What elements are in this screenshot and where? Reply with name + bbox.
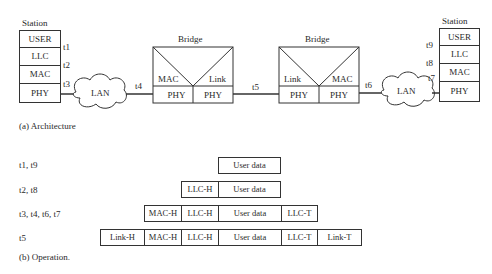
lan-left-label: LAN	[91, 88, 110, 98]
left-station-phy-layer: PHY	[19, 83, 61, 103]
right-bridge-phy-2: PHY	[319, 90, 359, 100]
left-bridge-phy-1: PHY	[160, 90, 193, 100]
field-link-t: Link-T	[317, 229, 362, 246]
left-bridge-link: Link	[209, 74, 226, 84]
row-label-t5: t5	[19, 233, 26, 243]
field-mac-h: MAC-H	[144, 205, 182, 222]
field-user-data: User data	[218, 229, 282, 246]
row-label-t1-t9: t1, t9	[19, 160, 38, 170]
field-mac-h: MAC-H	[144, 229, 182, 246]
operation-caption: (b) Operation.	[19, 252, 70, 262]
field-user-data: User data	[218, 181, 281, 198]
right-station-mac-layer: MAC	[439, 63, 480, 82]
field-user-data: User data	[218, 157, 281, 174]
lan-right-label: LAN	[397, 86, 416, 96]
right-station-phy-layer: PHY	[439, 81, 480, 102]
tap-label-t1: t1	[63, 42, 70, 52]
field-llc-t: LLC-T	[281, 205, 318, 222]
left-bridge-title: Bridge	[178, 34, 203, 44]
field-llc-h: LLC-H	[181, 229, 219, 246]
field-llc-h: LLC-H	[181, 205, 219, 222]
field-user-data: User data	[218, 205, 282, 222]
left-station-title: Station	[22, 18, 48, 28]
architecture-caption: (a) Architecture	[19, 121, 76, 131]
right-station-user-layer: USER	[439, 28, 480, 46]
tap-label-t9: t9	[426, 40, 433, 50]
row-label-t2-t8: t2, t8	[19, 185, 38, 195]
left-bridge-mac: MAC	[158, 74, 179, 84]
left-bridge-phy-2: PHY	[193, 90, 233, 100]
field-llc-t: LLC-T	[281, 229, 318, 246]
tap-label-t8: t8	[426, 58, 433, 68]
tap-label-t7: t7	[428, 73, 435, 83]
field-llc-h: LLC-H	[181, 181, 219, 198]
right-bridge-title: Bridge	[305, 34, 330, 44]
tap-label-t2: t2	[63, 60, 70, 70]
tap-label-t3: t3	[63, 79, 70, 89]
left-station-llc-layer: LLC	[19, 47, 61, 66]
tap-label-t6: t6	[365, 80, 372, 90]
field-link-h: Link-H	[100, 229, 145, 246]
tap-label-t4: t4	[135, 81, 142, 91]
left-station-mac-layer: MAC	[19, 65, 61, 84]
row-label-t3-t4-t6-t7: t3, t4, t6, t7	[19, 209, 61, 219]
left-station-user-layer: USER	[19, 30, 61, 48]
tap-label-t5: t5	[252, 82, 259, 92]
right-station-title: Station	[442, 16, 468, 26]
right-bridge-phy-1: PHY	[279, 90, 319, 100]
right-bridge-mac: MAC	[332, 74, 353, 84]
right-station-llc-layer: LLC	[439, 45, 480, 64]
right-bridge-link: Link	[284, 74, 301, 84]
